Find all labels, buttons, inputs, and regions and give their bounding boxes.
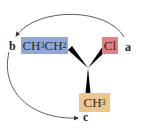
wedge-bond-ethyl [68, 46, 88, 68]
stereochemistry-diagram: CH3CH2 Cl CH3 b a c [0, 0, 142, 132]
wedge-bond-methyl [86, 68, 91, 93]
methyl-ch: CH [83, 96, 101, 109]
priority-label-a: a [125, 41, 131, 53]
ethyl-ch-2: CH [45, 39, 63, 52]
priority-label-c: c [83, 111, 88, 123]
ethyl-ch-1: CH [22, 39, 40, 52]
bonds-and-arrows [0, 0, 142, 132]
rotation-arrow-b-to-c [7, 52, 78, 118]
rotation-arrow-a-to-b [16, 14, 124, 37]
chloro-text: Cl [104, 39, 116, 52]
ethyl-group-box: CH3CH2 [21, 37, 68, 54]
priority-label-b: b [9, 40, 16, 52]
chloro-group-box: Cl [102, 37, 118, 54]
